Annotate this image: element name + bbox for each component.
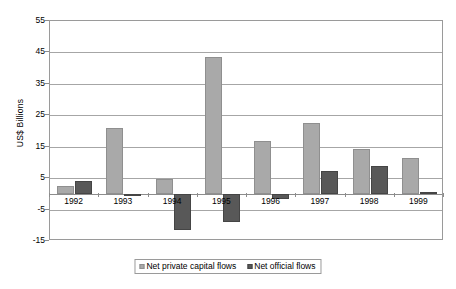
legend-item-private: Net private capital flows [139, 262, 236, 271]
x-axis-tick-mark [443, 193, 444, 197]
gridline [50, 84, 442, 85]
legend-swatch-official-icon [247, 264, 252, 269]
x-axis-tick-label: 1992 [64, 196, 83, 206]
bar-private-1996 [254, 141, 271, 193]
y-axis-tick-label: 55 [9, 15, 49, 25]
y-axis-tick-label: -5 [9, 204, 49, 214]
y-axis-title: US$ Billions [15, 78, 25, 168]
bar-chart: US$ Billions 55453525155-5-15 1992199319… [0, 0, 456, 289]
x-axis-tick-mark [197, 193, 198, 197]
legend-swatch-private-icon [139, 264, 144, 269]
x-axis-tick-label: 1999 [409, 196, 428, 206]
x-axis-tick-label: 1996 [261, 196, 280, 206]
x-axis-tick-mark [49, 193, 50, 197]
bar-private-1998 [353, 149, 370, 194]
bar-private-1995 [205, 57, 222, 194]
gridline [50, 115, 442, 116]
y-axis-tick-label: 15 [9, 141, 49, 151]
x-axis-tick-mark [394, 193, 395, 197]
legend-label-private: Net private capital flows [146, 262, 236, 271]
y-axis-tick-label: 25 [9, 109, 49, 119]
plot-area [49, 20, 443, 240]
bar-official-1992 [75, 181, 92, 194]
bar-official-1999 [420, 192, 437, 194]
x-axis-tick-label: 1995 [212, 196, 231, 206]
bar-official-1997 [321, 171, 338, 194]
y-axis-tick-label: 5 [9, 172, 49, 182]
bar-private-1997 [303, 123, 320, 194]
y-axis-tick-label: 35 [9, 78, 49, 88]
y-axis-tick-label: -15 [9, 235, 49, 245]
bar-private-1992 [57, 186, 74, 194]
chart-legend: Net private capital flows Net official f… [134, 259, 321, 274]
x-axis-tick-mark [295, 193, 296, 197]
x-axis-tick-label: 1997 [310, 196, 329, 206]
x-axis-tick-label: 1993 [113, 196, 132, 206]
legend-item-official: Net official flows [247, 262, 315, 271]
x-axis-tick-label: 1998 [360, 196, 379, 206]
x-axis-tick-mark [98, 193, 99, 197]
x-axis-tick-mark [246, 193, 247, 197]
x-axis-tick-label: 1994 [163, 196, 182, 206]
bar-private-1994 [156, 179, 173, 194]
bar-private-1999 [402, 158, 419, 194]
legend-label-official: Net official flows [254, 262, 315, 271]
gridline [50, 52, 442, 53]
gridline [50, 210, 442, 211]
y-axis-tick-mark [45, 240, 49, 241]
x-axis-tick-mark [148, 193, 149, 197]
y-axis-tick-label: 45 [9, 46, 49, 56]
x-axis-tick-mark [345, 193, 346, 197]
bar-private-1993 [106, 128, 123, 194]
bar-official-1998 [371, 166, 388, 194]
